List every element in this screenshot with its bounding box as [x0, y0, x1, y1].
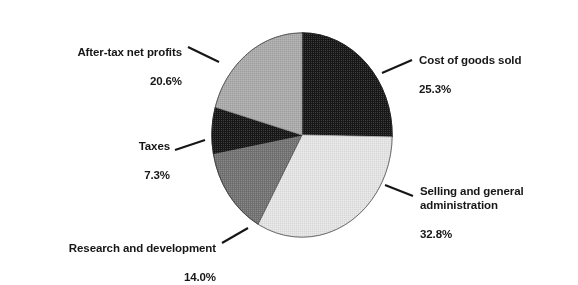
pie-label-research-and-development-name: Research and development — [8, 241, 216, 256]
pie-label-selling-and-general-administration: Selling and general administration 32.8% — [420, 169, 572, 256]
pie-svg — [211, 32, 393, 238]
pie-label-taxes: Taxes 7.3% — [60, 124, 170, 197]
pie-label-selling-and-general-administration-value: 32.8% — [420, 227, 572, 242]
leader-line-taxes — [175, 140, 205, 150]
pie-chart-graphic — [211, 32, 393, 238]
pie-label-cost-of-goods-sold-value: 25.3% — [419, 82, 569, 97]
pie-label-taxes-name: Taxes — [60, 139, 170, 154]
pie-label-taxes-value: 7.3% — [60, 168, 170, 183]
pie-label-cost-of-goods-sold: Cost of goods sold 25.3% — [419, 38, 569, 111]
pie-label-cost-of-goods-sold-name: Cost of goods sold — [419, 53, 569, 68]
pie-label-selling-and-general-administration-name: Selling and general administration — [420, 184, 572, 213]
pie-label-research-and-development-value: 14.0% — [8, 270, 216, 285]
pie-chart-figure: After-tax net profits 20.6% Taxes 7.3% R… — [0, 0, 578, 285]
pie-label-research-and-development: Research and development 14.0% — [8, 226, 216, 285]
pie-label-after-tax-net-profits-value: 20.6% — [22, 74, 182, 89]
pie-label-after-tax-net-profits: After-tax net profits 20.6% — [22, 30, 182, 103]
pie-label-after-tax-net-profits-name: After-tax net profits — [22, 45, 182, 60]
